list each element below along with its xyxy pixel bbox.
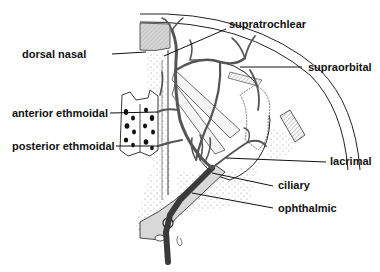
- label-ophthalmic: ophthalmic: [278, 202, 337, 214]
- label-ciliary: ciliary: [278, 179, 310, 191]
- lateral-orbital-wall: [265, 110, 305, 160]
- label-supratrochlear: supratrochlear: [229, 18, 306, 30]
- leader-lacrimal: [226, 158, 326, 162]
- label-anterior-ethmoidal: anterior ethmoidal: [12, 107, 108, 119]
- label-dorsal-nasal: dorsal nasal: [22, 48, 86, 60]
- label-supraorbital: supraorbital: [308, 61, 372, 73]
- label-posterior-ethmoidal: posterior ethmoidal: [12, 140, 115, 152]
- label-lacrimal: lacrimal: [330, 155, 372, 167]
- frontal-bone-patch: [140, 23, 170, 51]
- orbit-artery-illustration: [0, 0, 380, 272]
- leader-dorsal-nasal: [112, 52, 146, 54]
- diagram-figure: dorsal nasal supratrochlear supraorbital…: [0, 0, 380, 272]
